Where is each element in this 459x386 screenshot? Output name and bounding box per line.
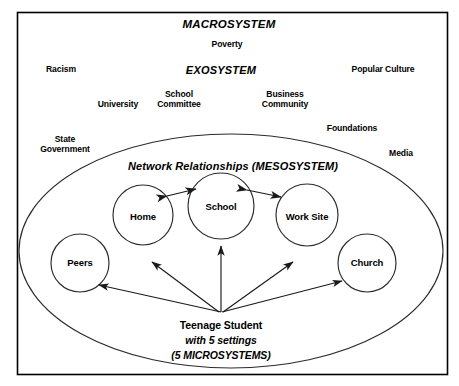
student-arrow-peers (99, 285, 221, 312)
macro-factor-state-government: State Government (40, 135, 90, 154)
exo-factor-foundations: Foundations (327, 124, 377, 134)
student-label-line1: Teenage Student (180, 320, 262, 332)
microsystem-label-work-site: Work Site (286, 212, 329, 223)
macro-factor-media: Media (389, 149, 413, 159)
microsystem-label-peers: Peers (67, 258, 92, 269)
macro-factor-popular-culture: Popular Culture (352, 65, 415, 75)
microsystem-label-school: School (205, 202, 236, 213)
exosystem-title: EXOSYSTEM (186, 64, 256, 76)
link-home-school (167, 189, 196, 196)
bronfenbrenner-ecological-systems-diagram: MACROSYSTEM Poverty Racism Popular Cultu… (0, 0, 459, 386)
mesosystem-title: Network Relationships (MESOSYSTEM) (128, 160, 338, 172)
student-label-line2: with 5 settings (185, 335, 256, 347)
exo-factor-business-community: Business Community (262, 90, 308, 109)
student-label-line3: (5 MICROSYSTEMS) (171, 350, 270, 362)
exo-factor-school-committee: School Committee (157, 90, 201, 109)
microsystem-label-church: Church (351, 258, 384, 269)
macro-factor-poverty: Poverty (212, 40, 243, 50)
student-arrow-work-site (223, 262, 293, 312)
macrosystem-title: MACROSYSTEM (183, 18, 276, 31)
exo-factor-university: University (98, 100, 139, 110)
student-arrow-church (222, 281, 342, 312)
microsystem-label-home: Home (130, 212, 156, 223)
macro-factor-racism: Racism (46, 65, 76, 75)
